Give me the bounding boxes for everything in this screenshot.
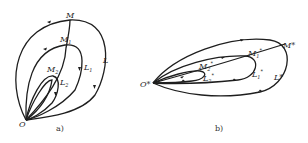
label-L1: L1 [83,63,93,73]
caption-b: b) [215,124,223,133]
label-O-star: O* [140,80,151,89]
loop-L2 [26,76,58,120]
label-M1: M1 [59,35,71,45]
diagram: M M1 M2 L L1 L2 O a) M* M1* M2* L* L1* L… [0,0,308,143]
label-L: L [102,56,108,65]
caption-a: a) [56,124,64,133]
label-M2: M2 [46,65,58,75]
diagram-canvas: M M1 M2 L L1 L2 O a) M* M1* M2* L* L1* L… [0,0,308,143]
trajectory-OM-star [153,44,285,83]
label-L1-star: L1* [251,68,264,80]
label-M-star: M* [282,41,295,50]
label-O: O [19,120,26,129]
loop-L-star [153,39,287,96]
loop-L1 [26,45,82,120]
panel-a: M M1 M2 L L1 L2 O a) [16,11,108,133]
label-M: M [65,11,75,20]
label-L2: L2 [59,78,69,88]
label-M1-star: M1* [247,47,262,59]
panel-b: M* M1* M2* L* L1* L2* O* b) [140,39,295,133]
label-L-star: L* [273,73,283,82]
